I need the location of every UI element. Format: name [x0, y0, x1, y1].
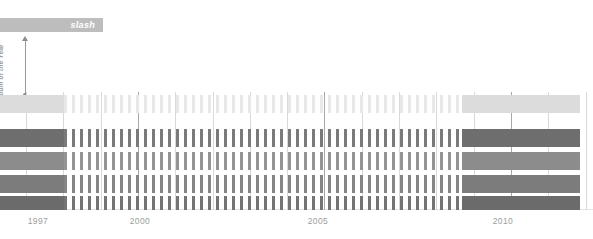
row-segment-solid-right	[462, 175, 580, 193]
row-segment-solid-left	[0, 95, 64, 113]
timeline-row[interactable]	[0, 175, 593, 193]
row-segment-dashed	[64, 152, 462, 170]
timeline-row[interactable]	[0, 152, 593, 170]
row-segment-solid-left	[0, 152, 64, 170]
row-segment-solid-left	[0, 196, 64, 210]
row-segment-dashed	[64, 95, 462, 113]
row-segment-solid-right	[462, 152, 580, 170]
timeline-row[interactable]	[0, 129, 593, 147]
plot-area: 1997200020052010	[0, 0, 593, 239]
x-tick-label: 1997	[28, 216, 49, 226]
row-segment-solid-right	[462, 95, 580, 113]
timeline-row[interactable]	[0, 95, 593, 113]
chart-canvas: slash Album of the Year 1997200020052010	[0, 0, 593, 239]
timeline-row[interactable]	[0, 196, 593, 210]
row-segment-solid-right	[462, 196, 580, 210]
row-segment-solid-left	[0, 129, 64, 147]
x-tick-label: 2000	[130, 216, 151, 226]
row-segment-solid-right	[462, 129, 580, 147]
row-segment-dashed	[64, 196, 462, 210]
row-segment-dashed	[64, 129, 462, 147]
row-segment-dashed	[64, 175, 462, 193]
row-segment-solid-left	[0, 175, 64, 193]
x-tick-label: 2005	[308, 216, 329, 226]
x-tick-label: 2010	[493, 216, 514, 226]
